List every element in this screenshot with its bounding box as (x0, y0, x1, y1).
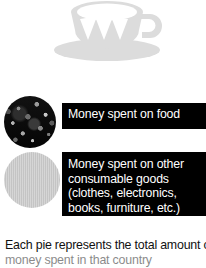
legend-item-food: Money spent on food (0, 94, 206, 148)
legend-label-food: Money spent on food (62, 103, 206, 129)
legend-item-goods: Money spent on other consumable goods (c… (0, 150, 206, 216)
legend-label-food-line-1: Money spent on food (68, 107, 200, 122)
legend-label-goods-line-2: consumable goods (68, 172, 200, 187)
legend-label-goods-line-3: (clothes, electronics, (68, 186, 200, 201)
legend-swatch-food-pie (4, 96, 56, 148)
cup-rim-shape (77, 4, 137, 21)
legend-label-goods: Money spent on other consumable goods (c… (62, 152, 206, 216)
cup-handle-shape (140, 14, 162, 38)
legend-label-goods-line-1: Money spent on other (68, 157, 200, 172)
legend-label-goods-line-4: books, furniture, etc.) (68, 201, 200, 216)
caption-line-2: money spent in that country (5, 253, 203, 268)
caption-block: Each pie represents the total amount of … (5, 238, 203, 268)
cup-zigzag-shape (80, 18, 128, 40)
legend-swatch-goods-pie (4, 152, 60, 208)
caption-line-1: Each pie represents the total amount of (5, 238, 203, 253)
teacup-illustration (0, 0, 206, 72)
